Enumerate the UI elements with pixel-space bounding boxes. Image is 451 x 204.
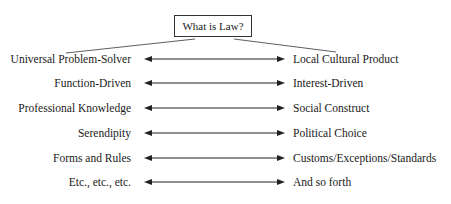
- left-label: Function-Driven: [54, 75, 131, 91]
- double-arrow-icon: [144, 79, 285, 87]
- right-label: Political Choice: [293, 125, 367, 141]
- double-arrow-icon: [144, 104, 285, 112]
- spectrum-row: Professional Knowledge Social Construct: [0, 100, 451, 116]
- right-label: Local Cultural Product: [293, 51, 398, 67]
- spectrum-row: Function-Driven Interest-Driven: [0, 75, 451, 91]
- double-arrow-icon: [144, 129, 285, 137]
- left-label: Forms and Rules: [53, 150, 131, 166]
- double-arrow-icon: [144, 154, 285, 162]
- spectrum-row: Etc., etc., etc. And so forth: [0, 174, 451, 190]
- right-label: Social Construct: [293, 100, 369, 116]
- right-label: Customs/Exceptions/Standards: [293, 150, 436, 166]
- left-label: Universal Problem-Solver: [11, 51, 131, 67]
- spectrum-row: Forms and Rules Customs/Exceptions/Stand…: [0, 150, 451, 166]
- double-arrow-icon: [144, 55, 285, 63]
- spectrum-row: Serendipity Political Choice: [0, 125, 451, 141]
- spectrum-row: Universal Problem-Solver Local Cultural …: [0, 51, 451, 67]
- title-box: What is Law?: [174, 15, 252, 37]
- left-label: Etc., etc., etc.: [69, 174, 131, 190]
- right-label: Interest-Driven: [293, 75, 363, 91]
- left-label: Professional Knowledge: [18, 100, 131, 116]
- double-arrow-icon: [144, 178, 285, 186]
- left-label: Serendipity: [78, 125, 131, 141]
- right-label: And so forth: [293, 174, 351, 190]
- title-text: What is Law?: [182, 20, 243, 32]
